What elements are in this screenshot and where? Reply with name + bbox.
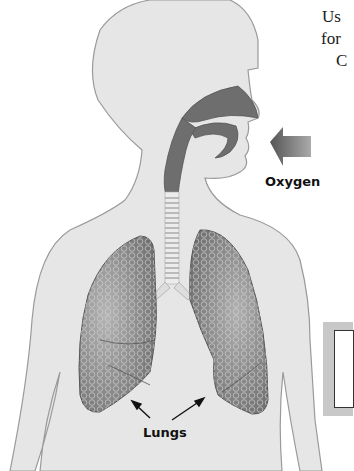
side-text-line-3: C — [336, 50, 347, 72]
oxygen-label: Oxygen — [265, 174, 320, 189]
side-text-line-2: for — [321, 28, 341, 50]
callout-box — [334, 330, 354, 408]
side-text-line-1: Us — [322, 6, 341, 28]
oxygen-arrow-icon — [270, 127, 311, 166]
lungs-label: Lungs — [143, 425, 187, 440]
